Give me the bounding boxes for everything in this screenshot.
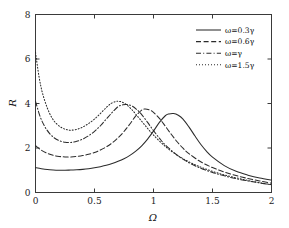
x-tick-label: 0.5 bbox=[87, 196, 102, 206]
legend-label-2: ω=γ bbox=[225, 49, 243, 58]
curve-series-1 bbox=[36, 109, 272, 183]
y-tick-label: 2 bbox=[25, 143, 31, 153]
legend-label-3: ω=1.5γ bbox=[225, 61, 255, 70]
curve-series-2 bbox=[36, 101, 272, 184]
x-tick-label: 2 bbox=[269, 196, 275, 206]
x-tick-label: 1 bbox=[151, 196, 157, 206]
y-axis-title: R bbox=[7, 99, 18, 108]
figure: 00.511.52 02468 Ω R ω=0.3γω=0.6γω=γω=1.5… bbox=[0, 0, 289, 228]
chart-canvas: 00.511.52 02468 Ω R ω=0.3γω=0.6γω=γω=1.5… bbox=[0, 0, 289, 228]
legend-label-0: ω=0.3γ bbox=[225, 26, 255, 35]
y-tick-label: 6 bbox=[25, 54, 31, 64]
x-axis-title: Ω bbox=[148, 212, 157, 223]
data-curves bbox=[36, 52, 272, 184]
x-tick-label: 0 bbox=[33, 196, 39, 206]
y-tick-label: 8 bbox=[25, 10, 31, 20]
legend: ω=0.3γω=0.6γω=γω=1.5γ bbox=[196, 26, 255, 70]
curve-series-3 bbox=[36, 52, 272, 184]
y-tick-label: 4 bbox=[25, 99, 31, 109]
x-tick-label: 1.5 bbox=[205, 196, 220, 206]
curve-series-0 bbox=[36, 113, 272, 180]
y-tick-label: 0 bbox=[25, 188, 31, 198]
legend-label-1: ω=0.6γ bbox=[225, 37, 255, 46]
